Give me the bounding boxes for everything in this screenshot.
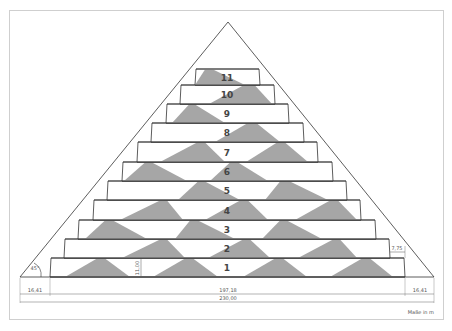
middle-width-label: 197,18 <box>219 287 237 293</box>
left-offset-label: 16,41 <box>28 287 42 293</box>
pyramid-layers: 1234567891011 <box>50 69 405 277</box>
layer-number-label: 4 <box>224 206 230 216</box>
layer-4: 4 <box>93 200 361 220</box>
layer-5: 5 <box>107 181 347 200</box>
layer-10: 10 <box>180 85 275 104</box>
pyramid-diagram: 1234567891011 45° 11,00 7,75 16,41 197,1… <box>0 0 452 331</box>
unit-note: Maße in m <box>408 309 434 315</box>
layer-height-label: 11,00 <box>134 261 140 275</box>
right-offset-label: 16,41 <box>413 287 427 293</box>
layer-number-label: 11 <box>221 73 234 83</box>
layer-1: 1 <box>50 258 405 277</box>
layer-number-label: 9 <box>224 109 230 119</box>
layer-number-label: 7 <box>224 148 230 158</box>
layer-number-label: 5 <box>224 186 230 196</box>
layer-7: 7 <box>137 142 318 162</box>
layer-number-label: 2 <box>224 244 230 254</box>
layer-8: 8 <box>151 123 304 142</box>
layer-2: 2 <box>64 239 390 258</box>
layer-6: 6 <box>122 162 333 181</box>
layer-number-label: 6 <box>224 167 230 177</box>
total-width-label: 230,00 <box>219 295 237 301</box>
layer-3: 3 <box>78 220 376 239</box>
step-width-label: 7,75 <box>391 245 402 251</box>
angle-label: 45° <box>31 265 40 271</box>
layer-number-label: 3 <box>224 225 230 235</box>
layer-number-label: 1 <box>224 263 230 273</box>
layer-number-label: 10 <box>221 90 234 100</box>
layer-11: 11 <box>195 69 260 85</box>
layer-number-label: 8 <box>224 128 230 138</box>
layer-9: 9 <box>166 104 289 123</box>
